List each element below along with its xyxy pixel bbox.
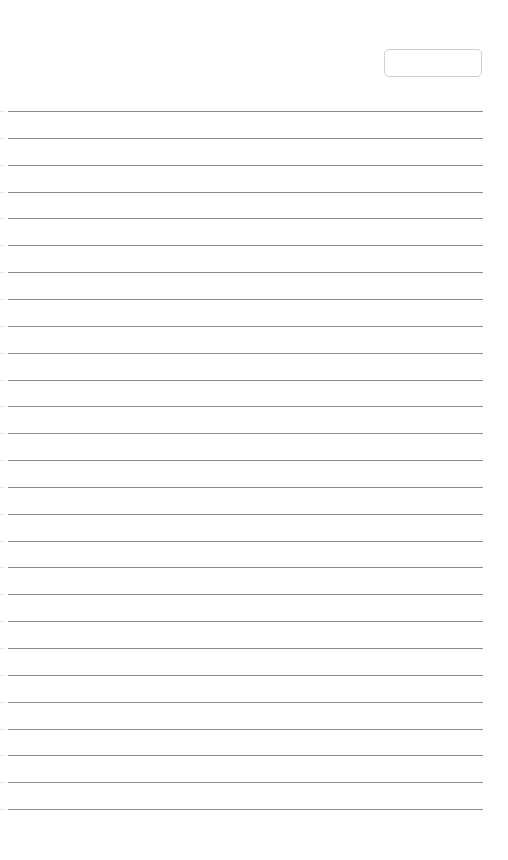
ruled-line [8,111,483,112]
margin-mark [0,541,5,542]
ruled-line [8,809,483,810]
ruled-line [8,702,483,703]
margin-mark [0,675,5,676]
margin-mark [0,487,5,488]
margin-mark [0,272,5,273]
ruled-line [8,755,483,756]
ruled-line [8,406,483,407]
margin-mark [0,594,5,595]
ruled-line [8,218,483,219]
margin-mark [0,460,5,461]
margin-mark [0,702,5,703]
ruled-line [8,380,483,381]
margin-mark [0,326,5,327]
ruled-line [8,594,483,595]
margin-mark [0,111,5,112]
margin-mark [0,353,5,354]
ruled-line [8,487,483,488]
ruled-line [8,272,483,273]
margin-mark [0,729,5,730]
ruled-line [8,165,483,166]
ruled-line [8,729,483,730]
margin-mark [0,406,5,407]
margin-mark [0,648,5,649]
ruled-line [8,675,483,676]
ruled-line [8,648,483,649]
margin-mark [0,380,5,381]
margin-mark [0,809,5,810]
margin-mark [0,621,5,622]
margin-mark [0,218,5,219]
margin-mark [0,514,5,515]
ruled-line [8,541,483,542]
ruled-line [8,460,483,461]
ruled-line [8,299,483,300]
margin-mark [0,433,5,434]
margin-mark [0,567,5,568]
margin-mark [0,165,5,166]
ruled-line [8,514,483,515]
ruled-line [8,138,483,139]
margin-mark [0,755,5,756]
ruled-line [8,433,483,434]
ruled-line [8,567,483,568]
margin-mark [0,299,5,300]
ruled-line [8,326,483,327]
ruled-line [8,245,483,246]
ruled-lines [0,0,508,860]
margin-mark [0,782,5,783]
ruled-line [8,621,483,622]
margin-mark [0,245,5,246]
margin-mark [0,192,5,193]
ruled-line [8,192,483,193]
ruled-line [8,782,483,783]
ruled-line [8,353,483,354]
margin-mark [0,138,5,139]
